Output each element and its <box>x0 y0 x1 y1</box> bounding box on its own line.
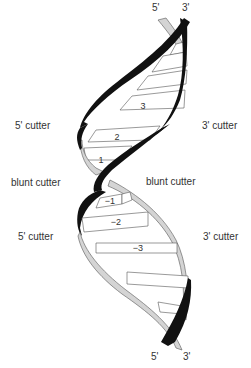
bp-number-minus-1: −1 <box>105 196 115 206</box>
label-blunt-cutter-right: blunt cutter <box>146 177 195 187</box>
bp-number-1: 1 <box>98 155 103 165</box>
bottom-5-prime-label: 5' <box>151 352 158 362</box>
top-5-prime-label: 5' <box>152 3 159 13</box>
lower-base-pairs <box>82 192 188 314</box>
bp-number-2: 2 <box>114 132 119 142</box>
bp-number-minus-2: −2 <box>111 217 121 227</box>
label-blunt-cutter-left: blunt cutter <box>11 178 60 188</box>
label-5-prime-cutter-upper: 5' cutter <box>15 121 50 131</box>
top-3-prime-label: 3' <box>182 3 189 13</box>
dna-helix-diagram: 3 2 1 −1 −2 −3 5' 3' 5' 3' 5' cutter 3' … <box>0 0 251 368</box>
bp-number-3: 3 <box>140 101 145 111</box>
label-3-prime-cutter-lower: 3' cutter <box>203 232 238 242</box>
label-5-prime-cutter-lower: 5' cutter <box>18 232 53 242</box>
bottom-3-prime-label: 3' <box>183 352 190 362</box>
label-3-prime-cutter-upper: 3' cutter <box>202 121 237 131</box>
bp-number-minus-3: −3 <box>133 243 143 253</box>
